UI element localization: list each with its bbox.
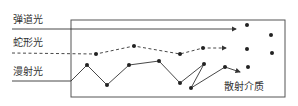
diffuse-light-path <box>12 61 240 88</box>
diffuse-light-dots <box>85 59 227 90</box>
snake-light-dots <box>94 44 205 56</box>
scattering-particles <box>245 23 274 69</box>
snake-light-path <box>12 46 226 54</box>
light-scattering-diagram: 弹道光 蛇形光 漫射光 散射介质 <box>0 0 298 106</box>
snake-light-label: 蛇形光 <box>13 38 43 48</box>
diffuse-light-label: 漫射光 <box>13 67 43 77</box>
ballistic-light-label: 弹道光 <box>13 15 43 25</box>
scattering-medium-label: 散射介质 <box>224 82 264 92</box>
